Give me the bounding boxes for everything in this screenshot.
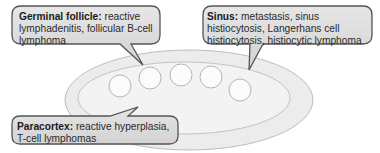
follicle-4 bbox=[200, 66, 222, 88]
follicle-1 bbox=[109, 75, 131, 97]
sinus-term: Sinus: bbox=[207, 11, 238, 22]
follicle-3 bbox=[170, 64, 192, 86]
paracortex-label: Paracortex: reactive hyperplasia, T-cell… bbox=[17, 121, 177, 145]
sinus-label: Sinus: metastasis, sinus histiocytosis, … bbox=[207, 11, 375, 47]
germinal-follicle-label: Germinal follicle: reactive lymphadeniti… bbox=[19, 11, 159, 47]
germinal-follicle-term: Germinal follicle: bbox=[19, 11, 102, 22]
follicle-2 bbox=[139, 67, 161, 89]
paracortex-term: Paracortex: bbox=[17, 121, 73, 132]
follicle-5 bbox=[229, 79, 251, 101]
